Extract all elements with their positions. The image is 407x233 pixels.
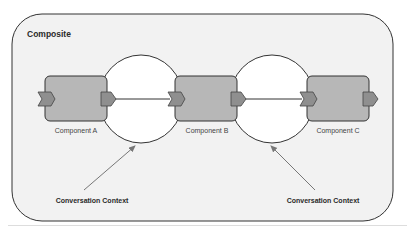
component-a[interactable] bbox=[38, 76, 116, 121]
conversation-context-label-2: Conversation Context bbox=[287, 197, 360, 204]
component-a-label: Component A bbox=[55, 127, 97, 134]
component-c-label: Component C bbox=[316, 127, 359, 134]
component-c[interactable] bbox=[300, 76, 378, 121]
conversation-context-label-1: Conversation Context bbox=[56, 197, 129, 204]
composite-title: Composite bbox=[27, 30, 71, 39]
component-b-label: Component B bbox=[186, 127, 229, 134]
bottom-divider bbox=[8, 225, 407, 226]
component-b[interactable] bbox=[168, 76, 246, 121]
